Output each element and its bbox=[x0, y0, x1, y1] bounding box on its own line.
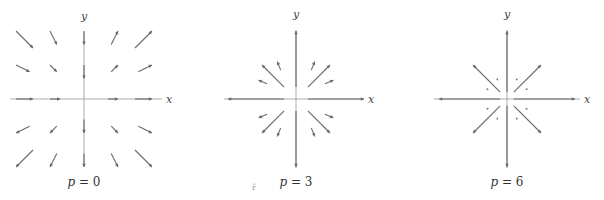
field-arrow bbox=[228, 97, 284, 101]
field-arrow bbox=[311, 128, 315, 136]
y-axis-label: y bbox=[80, 10, 88, 23]
field-arrow bbox=[138, 65, 152, 72]
field-arrow bbox=[487, 108, 489, 109]
arrowhead-icon bbox=[505, 31, 509, 34]
field-arrow bbox=[294, 111, 298, 167]
field-arrow bbox=[82, 65, 86, 79]
field-arrow bbox=[108, 97, 118, 101]
field-arrow bbox=[473, 65, 500, 92]
field-arrow bbox=[439, 97, 500, 101]
field-arrow bbox=[262, 65, 284, 87]
field-arrow bbox=[135, 150, 152, 167]
field-arrow bbox=[514, 97, 575, 101]
field-arrow bbox=[308, 65, 330, 87]
vector-field-canvas: xyp = 0xyp = 3xyp = 6 r̂ bbox=[0, 0, 604, 200]
field-arrow bbox=[277, 128, 281, 136]
arrowhead-icon bbox=[505, 164, 509, 167]
field-arrow bbox=[514, 106, 541, 133]
field-arrow bbox=[497, 79, 498, 81]
field-arrow bbox=[325, 80, 334, 84]
field-arrow bbox=[259, 114, 268, 118]
field-arrow bbox=[259, 80, 268, 84]
field-arrow bbox=[308, 97, 364, 101]
field-arrow bbox=[50, 97, 60, 101]
field-arrow bbox=[311, 62, 315, 71]
field-arrow bbox=[262, 111, 284, 133]
field-arrow bbox=[16, 31, 33, 48]
field-arrow bbox=[50, 31, 57, 45]
field-arrow bbox=[325, 114, 334, 118]
field-arrow bbox=[505, 31, 509, 92]
field-arrow bbox=[82, 153, 86, 167]
arrowhead-icon bbox=[228, 97, 231, 101]
vector-field-figure: xyp = 0xyp = 3xyp = 6 r̂ bbox=[0, 0, 604, 200]
field-arrow bbox=[516, 79, 517, 81]
field-arrow bbox=[308, 111, 330, 133]
panel-p6: xyp = 6 bbox=[434, 8, 591, 189]
field-arrow bbox=[526, 89, 528, 90]
y-axis-label: y bbox=[292, 8, 300, 21]
arrowhead-icon bbox=[439, 97, 442, 101]
field-arrow bbox=[111, 153, 118, 167]
field-arrow bbox=[16, 65, 30, 72]
stray-mark: r̂ bbox=[252, 183, 256, 192]
field-arrow bbox=[277, 62, 281, 71]
field-arrow bbox=[473, 106, 500, 133]
field-arrow bbox=[138, 126, 152, 133]
arrowhead-icon bbox=[82, 164, 86, 167]
field-arrow bbox=[50, 153, 57, 167]
panel-p3: xyp = 3 bbox=[224, 8, 375, 189]
field-arrow bbox=[294, 31, 298, 87]
field-arrow bbox=[16, 126, 30, 133]
field-arrow bbox=[526, 108, 528, 109]
field-arrow bbox=[82, 119, 86, 133]
arrowhead-icon bbox=[115, 97, 118, 101]
field-arrow bbox=[487, 89, 489, 90]
field-arrow bbox=[516, 118, 517, 120]
arrowhead-icon bbox=[149, 97, 152, 101]
arrowhead-icon bbox=[294, 31, 298, 34]
field-arrow bbox=[82, 31, 86, 45]
panel-caption: p = 3 bbox=[279, 175, 312, 189]
field-arrow bbox=[111, 126, 118, 133]
arrowhead-icon bbox=[82, 41, 86, 44]
arrowhead-icon bbox=[82, 75, 86, 78]
field-arrow bbox=[497, 118, 498, 120]
arrowhead-icon bbox=[294, 164, 298, 167]
x-axis-label: x bbox=[166, 93, 173, 106]
x-axis-label: x bbox=[584, 93, 591, 106]
field-arrow bbox=[135, 97, 152, 101]
arrowhead-icon bbox=[361, 97, 364, 101]
panel-caption: p = 0 bbox=[67, 175, 100, 189]
arrowhead-icon bbox=[30, 97, 33, 101]
field-arrow bbox=[514, 65, 541, 92]
panel-caption: p = 6 bbox=[490, 175, 523, 189]
panel-p0: xyp = 0 bbox=[10, 10, 173, 189]
x-axis-label: x bbox=[368, 93, 375, 106]
field-arrow bbox=[16, 97, 33, 101]
arrowhead-icon bbox=[572, 97, 575, 101]
y-axis-label: y bbox=[503, 8, 511, 21]
field-arrow bbox=[50, 126, 57, 133]
field-arrow bbox=[50, 65, 57, 72]
field-arrow bbox=[111, 31, 118, 45]
field-arrow bbox=[111, 65, 118, 72]
field-arrow bbox=[16, 150, 33, 167]
arrowhead-icon bbox=[82, 130, 86, 133]
field-arrow bbox=[135, 31, 152, 48]
field-arrow bbox=[505, 106, 509, 167]
arrowhead-icon bbox=[57, 97, 60, 101]
